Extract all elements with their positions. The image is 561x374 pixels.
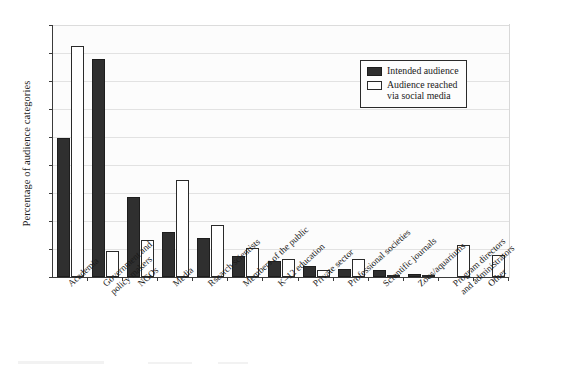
y-tick-mark	[49, 249, 54, 250]
bar-group	[197, 25, 224, 277]
bar-intended-audience	[57, 138, 70, 277]
x-tick-mark	[438, 277, 439, 281]
bar-intended-audience	[92, 59, 105, 277]
x-tick-mark	[262, 277, 263, 281]
x-tick-mark	[403, 277, 404, 281]
x-tick-mark	[192, 277, 193, 281]
bar-group	[92, 25, 119, 277]
bar-intended-audience	[408, 274, 421, 277]
bar-intended-audience	[162, 232, 175, 277]
y-tick-mark	[49, 193, 54, 194]
chart-legend: Intended audience Audience reached via s…	[360, 60, 467, 108]
bar-group	[162, 25, 189, 277]
x-tick-mark	[368, 277, 369, 281]
y-tick-mark	[49, 221, 54, 222]
legend-label-audience-reached: Audience reached via social media	[387, 79, 457, 102]
y-tick-mark	[49, 25, 54, 26]
bar-chart-figure: Percentage of audience categories 051015…	[0, 0, 561, 374]
bar-audience-reached	[71, 46, 84, 277]
x-tick-mark	[333, 277, 334, 281]
bar-intended-audience	[338, 269, 351, 277]
legend-item-intended-audience: Intended audience	[367, 65, 459, 77]
legend-swatch-light	[367, 81, 382, 90]
y-tick-mark	[49, 277, 54, 278]
y-axis-title: Percentage of audience categories	[21, 24, 32, 284]
legend-item-audience-reached: Audience reached via social media	[367, 79, 459, 102]
scan-artifact	[218, 362, 248, 364]
bar-group	[127, 25, 154, 277]
legend-swatch-dark	[367, 67, 382, 76]
bar-group	[57, 25, 84, 277]
x-tick-mark	[298, 277, 299, 281]
scan-artifact	[148, 362, 192, 364]
scan-artifact	[18, 361, 104, 364]
y-tick-mark	[49, 53, 54, 54]
y-tick-mark	[49, 165, 54, 166]
x-tick-mark	[508, 277, 509, 281]
x-tick-mark	[157, 277, 158, 281]
legend-label-intended-audience: Intended audience	[387, 65, 459, 77]
y-tick-mark	[49, 109, 54, 110]
y-tick-mark	[49, 137, 54, 138]
x-tick-mark	[227, 277, 228, 281]
bar-group	[303, 25, 330, 277]
y-tick-mark	[49, 81, 54, 82]
bar-audience-reached	[176, 180, 189, 277]
x-tick-mark	[87, 277, 88, 281]
bar-intended-audience	[197, 238, 210, 277]
bar-intended-audience	[373, 270, 386, 277]
